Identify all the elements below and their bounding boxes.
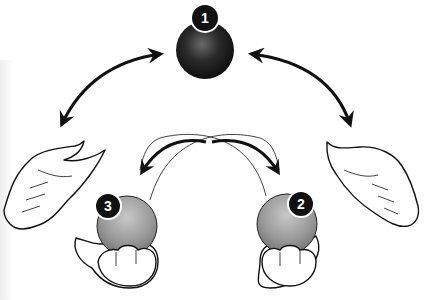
juggling-diagram: 1 3 <box>0 0 428 300</box>
arrow-left-top <box>62 54 160 124</box>
ball-2: 2 <box>257 191 317 254</box>
badge-3: 3 <box>95 193 121 219</box>
right-cupped-fingers-icon <box>262 246 316 287</box>
right-open-hand-icon <box>327 142 419 226</box>
badge-2: 2 <box>288 191 314 217</box>
badge-2-label: 2 <box>297 196 305 212</box>
ball-1: 1 <box>176 4 234 79</box>
badge-1-label: 1 <box>201 10 209 26</box>
left-open-hand-icon <box>4 141 105 229</box>
arrow-right-top <box>252 54 350 124</box>
badge-3-label: 3 <box>104 198 112 214</box>
badge-1: 1 <box>191 4 219 32</box>
